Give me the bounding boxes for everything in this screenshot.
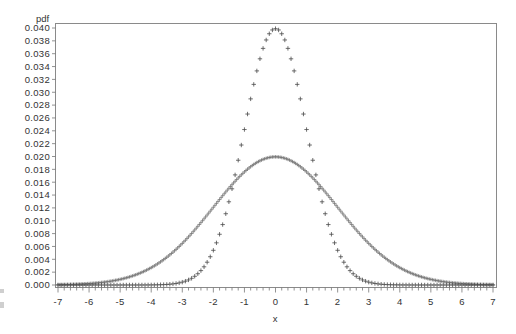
x-tick-label: 2: [335, 296, 341, 307]
x-tick-label: -1: [240, 296, 249, 307]
x-tick-label: -4: [147, 296, 156, 307]
y-tick-label: 0.022: [25, 138, 50, 149]
x-axis: -7-6-5-4-3-2-101234567: [53, 288, 495, 308]
series-wide-curve: [56, 155, 495, 286]
y-tick-label: 0.032: [25, 74, 50, 85]
x-tick-label: -2: [209, 296, 218, 307]
x-tick-label: -3: [178, 296, 187, 307]
y-tick-label: 0.004: [25, 254, 50, 265]
x-tick-label: 7: [490, 296, 496, 307]
x-tick-label: 3: [366, 296, 372, 307]
y-tick-label: 0.020: [25, 151, 50, 162]
y-tick-label: 0.028: [25, 99, 50, 110]
chart: pdf x 0.0000.0020.0040.0060.0080.0100.01…: [0, 0, 516, 334]
x-tick-label: 5: [428, 296, 434, 307]
y-tick-label: 0.014: [25, 189, 50, 200]
x-tick-label: 0: [273, 296, 279, 307]
y-tick-label: 0.010: [25, 215, 50, 226]
y-tick-label: 0.030: [25, 87, 50, 98]
x-tick-label: 4: [397, 296, 403, 307]
y-tick-label: 0.026: [25, 112, 50, 123]
y-axis: 0.0000.0020.0040.0060.0080.0100.0120.014…: [25, 22, 56, 290]
x-axis-title: x: [273, 313, 278, 324]
y-tick-label: 0.018: [25, 164, 50, 175]
y-tick-label: 0.034: [25, 61, 50, 72]
x-tick-label: -5: [116, 296, 125, 307]
edge-artifact: [0, 289, 4, 293]
y-tick-label: 0.036: [25, 48, 50, 59]
y-tick-label: 0.006: [25, 241, 50, 252]
x-tick-label: 1: [304, 296, 310, 307]
edge-artifact: [0, 302, 4, 308]
y-tick-label: 0.008: [25, 228, 50, 239]
x-tick-label: -6: [85, 296, 94, 307]
y-tick-label: 0.002: [25, 266, 50, 277]
y-tick-label: 0.038: [25, 35, 50, 46]
y-tick-label: 0.012: [25, 202, 50, 213]
y-tick-label: 0.040: [25, 22, 50, 33]
x-tick-label: 6: [459, 296, 465, 307]
plot-frame: [56, 24, 497, 288]
y-tick-label: 0.000: [25, 279, 50, 290]
y-tick-label: 0.016: [25, 177, 50, 188]
x-tick-label: -7: [53, 296, 62, 307]
y-tick-label: 0.024: [25, 125, 50, 136]
